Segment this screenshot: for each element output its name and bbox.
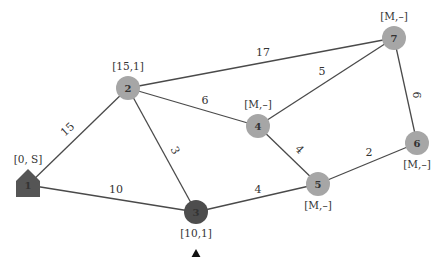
edge-1-2 <box>28 88 128 185</box>
node-number: 2 <box>125 83 132 94</box>
network-diagram: 1510361744526 1[0, S]2[15,1]3[10,1]4[M,–… <box>0 0 442 257</box>
node-distance-label: [0, S] <box>14 153 43 165</box>
node-distance-label: [M,–] <box>380 10 408 22</box>
edge-2-4 <box>128 88 258 126</box>
node-3: 3[10,1] <box>180 200 212 239</box>
edge-2-3 <box>128 88 196 212</box>
current-node-marker <box>191 249 201 257</box>
node-distance-label: [M,–] <box>304 199 332 211</box>
node-number: 3 <box>193 207 200 218</box>
node-number: 4 <box>255 121 262 132</box>
node-number: 7 <box>391 33 398 44</box>
node-5: 5[M,–] <box>304 172 332 211</box>
edge-weight-label: 5 <box>319 65 326 78</box>
node-number: 6 <box>414 138 421 149</box>
edge-weight-label: 10 <box>109 183 123 196</box>
triangle-marker-icon <box>191 249 201 257</box>
node-4: 4[M,–] <box>244 98 272 138</box>
edge-7-6 <box>394 38 417 143</box>
edge-weight-label: 4 <box>292 142 306 156</box>
node-distance-label: [M,–] <box>244 98 272 110</box>
node-distance-label: [15,1] <box>112 60 144 72</box>
edge-weight-label: 4 <box>255 183 262 196</box>
edge-4-5 <box>258 126 318 184</box>
edge-weight-label: 6 <box>202 94 209 107</box>
node-2: 2[15,1] <box>112 60 144 100</box>
edges-layer <box>28 38 417 212</box>
node-number: 1 <box>25 180 32 191</box>
node-distance-label: [10,1] <box>180 227 212 239</box>
edge-weight-label: 2 <box>366 146 373 159</box>
node-7: 7[M,–] <box>380 10 408 50</box>
node-distance-label: [M,–] <box>403 158 431 170</box>
edge-weight-label: 6 <box>410 92 423 99</box>
edge-weight-label: 15 <box>58 120 77 139</box>
edge-weight-label: 3 <box>168 144 183 156</box>
edge-weight-label: 17 <box>256 46 270 59</box>
nodes-layer: 1[0, S]2[15,1]3[10,1]4[M,–]5[M,–]6[M,–]7… <box>14 10 431 239</box>
node-number: 5 <box>315 179 322 190</box>
node-6: 6[M,–] <box>403 131 431 170</box>
